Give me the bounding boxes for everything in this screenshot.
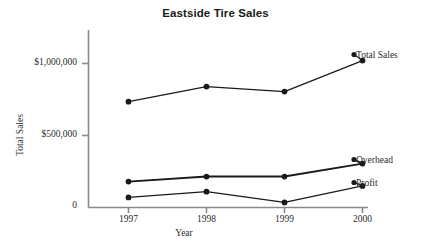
data-point bbox=[282, 200, 288, 206]
data-point bbox=[204, 174, 210, 180]
data-point bbox=[204, 84, 210, 90]
data-point bbox=[126, 195, 132, 201]
data-point bbox=[204, 189, 210, 195]
chart-container: Eastside Tire Sales $1,000,000 $500,000 … bbox=[0, 0, 431, 251]
series-line-total-sales bbox=[129, 61, 363, 102]
x-tick-label-1999: 1999 bbox=[262, 214, 307, 224]
data-point bbox=[126, 99, 132, 105]
x-tick-label-1997: 1997 bbox=[106, 214, 151, 224]
data-point bbox=[282, 89, 288, 95]
x-tick-label-1998: 1998 bbox=[184, 214, 229, 224]
x-tick-label-2000: 2000 bbox=[340, 214, 385, 224]
y-tick-label-1000000: $1,000,000 bbox=[14, 57, 77, 67]
data-point bbox=[126, 179, 132, 185]
series-label-profit: Profit bbox=[356, 178, 378, 188]
series-group bbox=[126, 52, 366, 205]
data-point bbox=[282, 174, 288, 180]
series-line-profit bbox=[129, 186, 363, 203]
series-label-total-sales: Total Sales bbox=[356, 50, 398, 60]
series-line-overhead bbox=[129, 164, 363, 182]
y-axis-title: Total Sales bbox=[11, 97, 29, 173]
y-tick-label-0: 0 bbox=[49, 200, 77, 210]
series-label-overhead: Overhead bbox=[356, 155, 393, 165]
y-axis-title-text: Total Sales bbox=[15, 114, 25, 156]
x-axis-title: Year bbox=[0, 228, 368, 238]
